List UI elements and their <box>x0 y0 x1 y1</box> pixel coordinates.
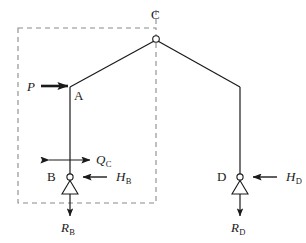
reaction-label-rb-text: R <box>61 220 69 235</box>
node-label-c: C <box>151 8 160 21</box>
force-label-qc: QC <box>96 153 111 166</box>
force-label-qc-text: Q <box>96 152 105 167</box>
support-triangle-b <box>62 181 78 195</box>
node-label-a: A <box>74 89 83 102</box>
pin-circle-d <box>237 174 243 180</box>
reaction-label-rb-sub: B <box>69 227 75 237</box>
force-label-hb: HB <box>116 170 131 183</box>
hinge-joint-c <box>153 36 160 43</box>
pin-circle-b <box>67 174 73 180</box>
force-label-hd-sub: D <box>296 176 302 186</box>
reaction-label-rd-sub: D <box>239 227 245 237</box>
force-label-p: P <box>27 80 35 93</box>
reaction-label-rd-text: R <box>231 220 239 235</box>
force-label-p-text: P <box>27 79 35 94</box>
force-label-hb-sub: B <box>126 176 132 186</box>
member-c-d-top <box>156 40 240 87</box>
support-triangle-d <box>232 181 248 195</box>
free-body-diagram: C A B D P QC HB HD RB RD <box>0 0 306 243</box>
force-label-hb-text: H <box>116 169 125 184</box>
force-label-qc-sub: C <box>106 159 112 169</box>
diagram-canvas <box>0 0 306 243</box>
node-label-d: D <box>217 170 226 183</box>
member-c-a <box>70 40 156 87</box>
reaction-label-rb: RB <box>61 221 75 234</box>
force-label-hd: HD <box>286 170 302 183</box>
reaction-label-rd: RD <box>231 221 245 234</box>
node-label-b: B <box>47 170 56 183</box>
force-label-hd-text: H <box>286 169 295 184</box>
